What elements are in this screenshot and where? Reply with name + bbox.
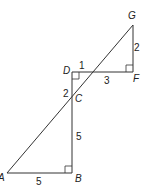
point-label-f: F	[133, 73, 140, 84]
length-label-fg: 2	[134, 42, 140, 53]
point-label-c: C	[75, 93, 83, 104]
length-label-df: 3	[104, 75, 110, 86]
right-angle-b-icon	[65, 166, 72, 173]
length-label-bc: 5	[76, 131, 82, 142]
segment-ag	[7, 25, 133, 173]
length-label-cd: 2	[63, 88, 69, 99]
point-label-g: G	[128, 10, 136, 21]
point-label-a: A	[0, 172, 5, 183]
point-label-d: D	[63, 65, 70, 76]
length-label-d-to-intersection: 1	[79, 60, 85, 71]
right-angle-f-icon	[126, 65, 133, 72]
geometry-diagram: A B C D F G 5 5 2 3 2 1	[0, 0, 148, 194]
right-angle-d-icon	[72, 72, 79, 79]
length-label-ab: 5	[36, 176, 42, 187]
point-label-b: B	[75, 173, 82, 184]
